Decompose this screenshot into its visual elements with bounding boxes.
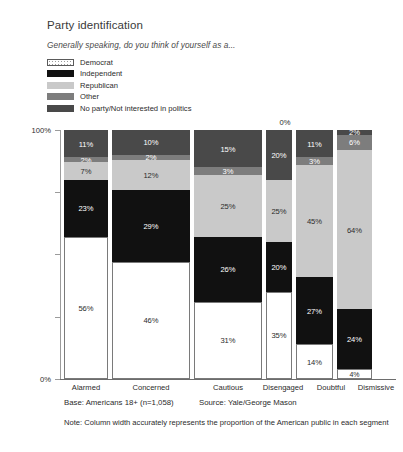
segment-value: 27% [296,306,333,315]
segment-value: 35% [267,331,291,340]
segment-disengaged-democrat: 35% [266,292,292,379]
segment-value: 26% [194,265,262,274]
legend-label-republican: Republican [80,81,118,90]
column-alarmed[interactable]: 11% 2% 7% 23% 56% [64,130,108,379]
segment-value: 15% [194,144,262,153]
segment-cautious-republican: 25% [194,175,262,237]
segment-value: 24% [337,335,372,344]
column-disengaged[interactable]: 20% 25% 20% 35% [266,130,292,379]
legend-swatch-other [47,93,74,100]
x-label-disengaged: Disengaged [253,383,313,392]
segment-value: 14% [297,357,332,366]
segment-dismissive-democrat: 4% [337,369,372,379]
segment-value: 64% [337,225,372,234]
y-axis-label-top: 100% [25,126,51,135]
segment-doubtful-no-party: 11% [296,130,333,157]
legend-item-no-party: No party/Not interested in politics [47,103,191,113]
y-tick-25 [55,317,60,318]
segment-value: 45% [296,216,333,225]
segment-dismissive-independent: 24% [337,309,372,369]
base-note: Base: Americans 18+ (n=1,058) [64,398,174,407]
segment-value: 10% [112,138,190,147]
segment-doubtful-democrat: 14% [296,344,333,379]
y-tick-0 [55,379,60,380]
legend-label-independent: Independent [80,69,122,78]
x-label-concerned: Concerned [112,383,190,392]
zero-percent-callout: 0% [270,118,300,127]
legend-item-republican: Republican [47,80,191,90]
segment-value: 25% [194,201,262,210]
y-tick-100 [55,130,60,131]
segment-doubtful-republican: 45% [296,165,333,277]
segment-value: 20% [266,150,292,159]
legend-item-other: Other [47,92,191,102]
y-tick-75 [55,192,60,193]
column-doubtful[interactable]: 11% 3% 45% 27% 14% [296,130,333,379]
segment-value: 11% [296,139,333,148]
y-tick-50 [55,254,60,255]
chart-footnote: Note: Column width accurately represents… [64,417,389,429]
legend-item-independent: Independent [47,69,191,79]
segment-value: 3% [296,157,333,164]
legend-item-democrat: Democrat [47,57,191,67]
segment-doubtful-independent: 27% [296,277,333,344]
segment-concerned-democrat: 46% [112,262,190,379]
legend-label-other: Other [80,92,99,101]
segment-alarmed-no-party: 11% [64,130,108,157]
segment-cautious-independent: 26% [194,237,262,302]
segment-value: 31% [195,336,261,345]
chart-subtitle: Generally speaking, do you think of your… [47,40,235,50]
legend-label-no-party: No party/Not interested in politics [80,104,191,113]
segment-doubtful-other: 3% [296,157,333,164]
legend-label-democrat: Democrat [80,58,113,67]
segment-dismissive-other: 6% [337,135,372,150]
legend-swatch-republican [47,82,74,89]
x-label-cautious: Cautious [194,383,262,392]
segment-disengaged-no-party: 20% [266,130,292,180]
segment-dismissive-republican: 64% [337,150,372,309]
segment-value: 46% [113,316,189,325]
chart-page: Party identification Generally speaking,… [0,0,403,452]
segment-disengaged-independent: 20% [266,242,292,292]
segment-alarmed-independent: 23% [64,180,108,237]
segment-alarmed-democrat: 56% [64,237,108,379]
x-label-alarmed: Alarmed [64,383,108,392]
segment-value: 3% [194,167,262,174]
x-label-doubtful: Doubtful [310,383,352,392]
segment-concerned-no-party: 10% [112,130,190,155]
source-note: Source: Yale/George Mason [199,398,297,407]
segment-value: 6% [337,138,372,147]
segment-cautious-democrat: 31% [194,302,262,379]
chart-legend: Democrat Independent Republican Other No… [47,57,191,115]
segment-cautious-other: 3% [194,167,262,174]
segment-alarmed-republican: 7% [64,162,108,179]
column-dismissive[interactable]: 2% 6% 64% 24% 4% [337,130,372,379]
page-title: Party identification [47,19,143,31]
segment-value: 20% [266,262,292,271]
legend-swatch-independent [47,70,74,77]
segment-value: 29% [112,221,190,230]
segment-concerned-independent: 29% [112,190,190,262]
segment-cautious-no-party: 15% [194,130,262,167]
column-concerned[interactable]: 10% 2% 12% 29% 46% [112,130,190,379]
segment-value: 11% [64,139,108,148]
segment-value: 12% [112,170,190,179]
legend-swatch-no-party [47,105,74,112]
legend-swatch-democrat [47,59,74,66]
segment-value: 4% [338,370,371,379]
chart-plot-area: 11% 2% 7% 23% 56% 10% 2% 12% [64,130,396,379]
segment-value: 25% [266,206,292,215]
y-axis-line [60,130,61,379]
column-cautious[interactable]: 15% 3% 25% 26% 31% [194,130,262,379]
x-label-dismissive: Dismissive [351,383,401,392]
segment-value: 7% [64,167,108,176]
segment-value: 23% [64,204,108,213]
segment-disengaged-republican: 25% [266,180,292,242]
segment-value: 56% [65,304,107,313]
x-axis-baseline [60,379,396,380]
segment-concerned-republican: 12% [112,160,190,190]
y-axis-label-bottom: 0% [25,375,51,384]
